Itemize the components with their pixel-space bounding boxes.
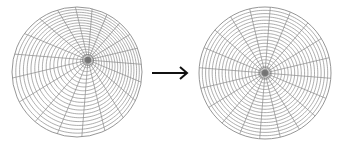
right-arrow-icon	[152, 67, 187, 79]
regular-polar-grid	[199, 7, 331, 139]
distorted-polar-grid	[12, 7, 142, 137]
polar-transform-diagram	[0, 0, 337, 147]
